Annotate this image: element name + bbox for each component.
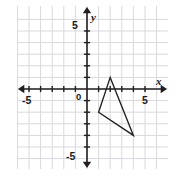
x-axis-tick-label-negative-5: -5 (22, 95, 31, 106)
y-axis-tick-label-5: 5 (72, 20, 78, 31)
triangle-shape (17, 6, 168, 169)
plot-area (17, 6, 168, 169)
x-axis-tick-label-5: 5 (142, 95, 148, 106)
y-axis-label: y (91, 12, 96, 23)
x-axis-label: x (156, 76, 162, 87)
coordinate-plane-figure: -5 5 5 -5 0 x y (0, 0, 182, 180)
origin-label: 0 (76, 92, 81, 102)
y-axis-tick-label-negative-5: -5 (66, 151, 75, 162)
